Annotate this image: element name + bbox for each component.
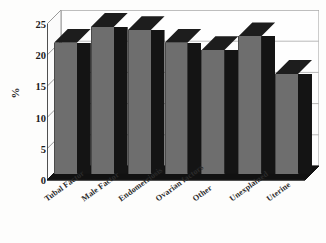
x-label-unexplained: Unexplained <box>228 169 270 203</box>
bar-chart: % 0510152025 Tubal <box>0 0 326 243</box>
x-label-uterine: Uterine <box>265 180 292 203</box>
x-axis-category-labels: Tubal FactorMale FactorEndometriosisOvar… <box>0 0 326 243</box>
x-label-other: Other <box>191 183 214 203</box>
x-label-tubal-factor: Tubal Factor <box>43 169 86 204</box>
